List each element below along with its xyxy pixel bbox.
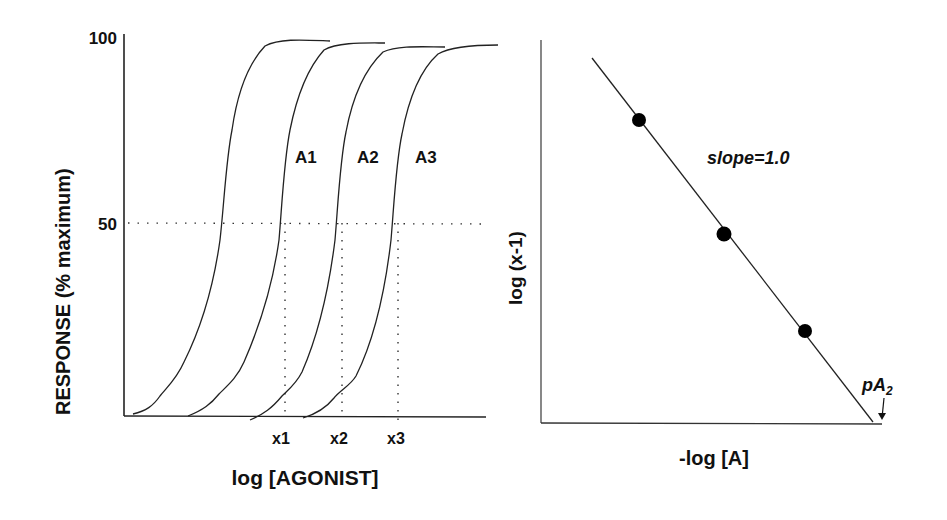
arrow-down-icon	[878, 413, 886, 420]
right-chart: slope=1.0 log (x-1) -log [A] pA2	[505, 40, 893, 469]
data-point-1	[632, 113, 646, 127]
left-y-axis-label: RESPONSE (% maximum)	[52, 168, 74, 415]
right-x-axis	[541, 423, 882, 424]
y-tick-50: 50	[98, 215, 117, 234]
schild-regression-line	[592, 58, 873, 422]
slope-label: slope=1.0	[707, 148, 790, 168]
a1-curve	[188, 43, 385, 416]
a3-label: A3	[415, 148, 437, 167]
right-y-axis-label: log (x-1)	[505, 231, 526, 305]
right-x-axis-label: -log [A]	[679, 447, 749, 469]
figure-canvas: 100 50 RESPONSE (% maximum) A1 A2 A3 x1 …	[0, 0, 947, 520]
a2-label: A2	[357, 148, 379, 167]
x3-label: x3	[387, 430, 405, 447]
left-x-axis-label: log [AGONIST]	[232, 466, 379, 489]
y-tick-100: 100	[89, 29, 117, 48]
a1-label: A1	[295, 148, 317, 167]
half-max-reference-line	[128, 223, 486, 224]
x1-label: x1	[272, 430, 290, 447]
left-chart: 100 50 RESPONSE (% maximum) A1 A2 A3 x1 …	[52, 29, 498, 489]
control-curve	[133, 40, 330, 414]
data-point-3	[798, 324, 812, 338]
pa2-label: pA2	[861, 375, 893, 398]
x2-label: x2	[330, 430, 348, 447]
a3-curve	[303, 45, 498, 418]
data-point-2	[717, 227, 732, 242]
